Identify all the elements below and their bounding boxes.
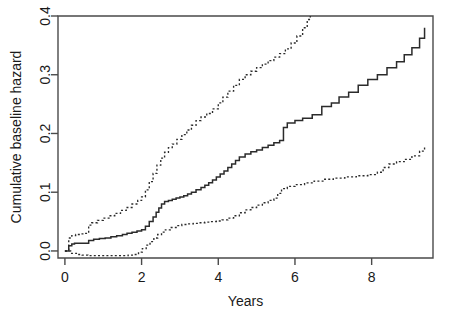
x-axis-title: Years	[228, 293, 263, 309]
y-axis-title: Cumulative baseline hazard	[8, 51, 24, 224]
x-tick-label-6: 6	[291, 269, 299, 285]
x-tick-label-0: 0	[61, 269, 69, 285]
data-series-group	[65, 16, 425, 256]
plot-frame	[58, 16, 433, 258]
x-tick-label-2: 2	[138, 269, 146, 285]
series-line-2	[65, 148, 425, 256]
axis-box	[58, 16, 433, 258]
x-axis-ticks	[65, 258, 372, 265]
y-tick-label-0.1: 0.1	[37, 182, 53, 202]
y-tick-label-0.3: 0.3	[37, 65, 53, 85]
series-line-0	[65, 28, 425, 251]
x-tick-label-8: 8	[368, 269, 376, 285]
series-line-1	[65, 16, 310, 251]
y-tick-label-0.0: 0.0	[37, 241, 53, 261]
x-tick-label-4: 4	[214, 269, 222, 285]
cumulative-baseline-hazard-chart: 02468 0.00.10.20.30.4 Years Cumulative b…	[0, 0, 452, 311]
y-tick-label-0.4: 0.4	[37, 6, 53, 26]
y-tick-label-0.2: 0.2	[37, 124, 53, 144]
chart-figure: 02468 0.00.10.20.30.4 Years Cumulative b…	[0, 0, 452, 311]
y-axis-tick-labels: 0.00.10.20.30.4	[37, 6, 53, 261]
x-axis-tick-labels: 02468	[61, 269, 376, 285]
